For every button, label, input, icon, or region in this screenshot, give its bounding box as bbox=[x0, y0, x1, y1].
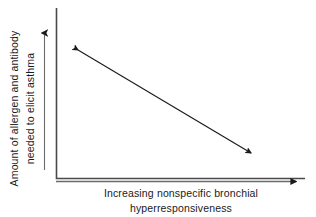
x-axis-label: Increasing nonspecific bronchial hyperre… bbox=[56, 186, 306, 216]
trend-arrow bbox=[78, 50, 251, 153]
plot-area bbox=[0, 0, 316, 217]
asthma-relationship-figure: Amount of allergen and antibody needed t… bbox=[0, 0, 316, 217]
plot-axes bbox=[57, 8, 306, 179]
x-axis-label-line-2: hyperresponsiveness bbox=[56, 201, 306, 216]
x-axis-label-line-1: Increasing nonspecific bronchial bbox=[56, 186, 306, 201]
